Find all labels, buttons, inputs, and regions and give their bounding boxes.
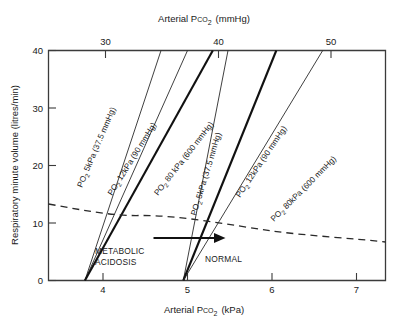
bottom-axis-title-main: Arterial P [164, 304, 203, 315]
top-axis-ticks: 30 40 50 [100, 36, 336, 58]
bottom-axis-ticks: 4 5 6 7 [100, 273, 359, 295]
left-tick-label-30: 30 [32, 103, 43, 114]
bottom-tick-label-6: 6 [269, 284, 274, 295]
svg-text:Arterial PCO2(kPa): Arterial PCO2(kPa) [164, 304, 244, 317]
bottom-axis-title-units: (kPa) [221, 304, 244, 315]
series-labels: PO2 5kPa (37.5 mmHg) PO2 12kPa (90 mmHg)… [76, 106, 340, 225]
series-label-po2-5kpa-acidosis: PO2 5kPa (37.5 mmHg) [76, 106, 119, 190]
left-tick-label-40: 40 [32, 45, 43, 56]
top-axis-title-main: Arterial P [158, 13, 197, 24]
chart-svg: 30 40 50 Arterial PCO2(mmHg) 4 5 6 7 Art… [0, 0, 408, 327]
region-annotations: METABOLIC ACIDOSIS NORMAL [95, 246, 242, 267]
left-axis-title: Respiratory minute volume (litres/min) [9, 85, 20, 245]
annotation-metabolic-acidosis-line1: METABOLIC [95, 246, 145, 256]
left-tick-label-10: 10 [32, 218, 43, 229]
bottom-tick-label-7: 7 [354, 284, 359, 295]
shift-arrow-head [214, 233, 226, 243]
bottom-axis-title-co: CO [203, 307, 214, 314]
series-label-po2-80kpa-normal: PO2 80kPa (600 mmHg) [269, 154, 339, 224]
bottom-axis-title: Arterial PCO2(kPa) [164, 304, 244, 317]
bottom-tick-label-5: 5 [185, 284, 190, 295]
svg-text:Arterial PCO2(mmHg): Arterial PCO2(mmHg) [158, 13, 250, 26]
top-tick-label-40: 40 [213, 36, 224, 47]
shift-arrow [154, 233, 226, 243]
bottom-tick-label-4: 4 [100, 284, 105, 295]
annotation-normal: NORMAL [205, 254, 242, 264]
top-axis-title-units: (mmHg) [216, 13, 250, 24]
chart-figure: 30 40 50 Arterial PCO2(mmHg) 4 5 6 7 Art… [0, 0, 408, 327]
left-axis-title-text: Respiratory minute volume (litres/min) [9, 85, 20, 245]
left-tick-label-20: 20 [32, 160, 43, 171]
top-axis-title-2: 2 [208, 19, 212, 26]
bottom-axis-title-2: 2 [213, 310, 217, 317]
top-axis-title: Arterial PCO2(mmHg) [158, 13, 250, 26]
top-axis-title-co: CO [197, 16, 208, 23]
left-axis-ticks: 0 10 20 30 40 [32, 45, 56, 286]
left-tick-label-0: 0 [38, 275, 43, 286]
top-tick-label-30: 30 [100, 36, 111, 47]
top-tick-label-50: 50 [326, 36, 337, 47]
annotation-metabolic-acidosis-line2: ACIDOSIS [95, 257, 137, 267]
